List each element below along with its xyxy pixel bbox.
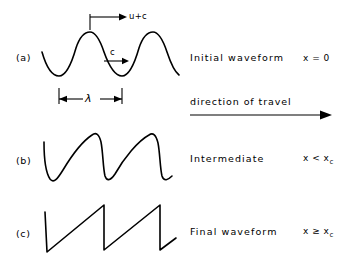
wave-steepening-figure: (a) Initial waveform x = 0 u+c c λ direc…: [0, 0, 340, 266]
wavelength-label: λ: [85, 92, 92, 105]
row-condition-c: x ≥ xc: [303, 226, 333, 239]
row-description-b: Intermediate: [190, 153, 265, 164]
sound-speed-arrow-head: [122, 58, 129, 64]
travel-direction-arrow-head: [320, 111, 332, 120]
row-label-b: (b): [16, 155, 31, 166]
crest-velocity-label: u+c: [129, 11, 147, 21]
figure-graphics: [0, 0, 340, 266]
crest-velocity-arrow-head: [119, 14, 127, 21]
waveform-intermediate-steepened: [44, 134, 172, 181]
row-condition-c-base: x ≥ x: [303, 226, 329, 236]
lambda-arrow-head-left: [59, 96, 67, 102]
waveform-final-sawtooth: [45, 205, 176, 252]
travel-direction-label: direction of travel: [190, 96, 292, 107]
row-condition-a: x = 0: [303, 53, 330, 63]
row-condition-b-subscript: c: [329, 158, 333, 166]
row-label-c: (c): [16, 228, 30, 239]
row-label-a: (a): [16, 52, 31, 63]
sound-speed-label: c: [110, 47, 115, 57]
row-condition-c-subscript: c: [329, 231, 333, 239]
row-description-c: Final waveform: [190, 226, 278, 237]
row-condition-b-base: x < x: [303, 153, 329, 163]
row-description-a: Initial waveform: [190, 52, 284, 63]
row-condition-b: x < xc: [303, 153, 333, 166]
lambda-arrow-head-right: [114, 96, 122, 102]
